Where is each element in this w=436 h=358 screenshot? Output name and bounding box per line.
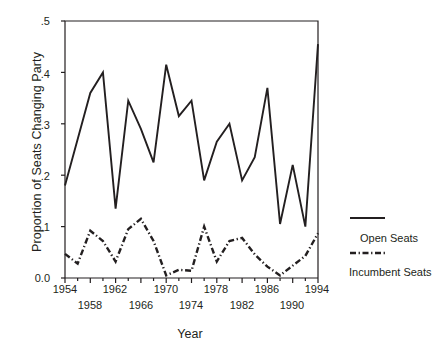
plot-canvas — [0, 0, 436, 358]
legend-label-incumbent-seats: Incumbent Seats — [349, 266, 432, 278]
series-line-incumbent-seats — [65, 219, 318, 276]
y-tick-label-3: .3 — [24, 119, 50, 131]
x-tick-label-1962: 1962 — [95, 283, 135, 295]
y-tick-label-5: .5 — [24, 15, 50, 27]
x-tick-label-1954: 1954 — [45, 283, 85, 295]
x-tick-label-1970: 1970 — [146, 283, 186, 295]
x-tick-label-1994: 1994 — [297, 283, 337, 295]
x-axis-title: Year — [110, 327, 270, 341]
x-tick-label-1978: 1978 — [196, 283, 236, 295]
x-tick-label-1958: 1958 — [70, 299, 110, 311]
y-tick-label-4: .4 — [24, 68, 50, 80]
legend-label-open-seats: Open Seats — [360, 232, 418, 244]
x-tick-label-1986: 1986 — [247, 283, 287, 295]
x-tick-label-1966: 1966 — [121, 299, 161, 311]
y-axis-title: Proportion of Seats Changing Party — [30, 22, 44, 282]
series-line-open-seats — [65, 44, 318, 226]
y-tick-label-2: .2 — [24, 170, 50, 182]
y-tick-label-1: .1 — [24, 221, 50, 233]
x-tick-label-1982: 1982 — [222, 299, 262, 311]
x-tick-label-1974: 1974 — [171, 299, 211, 311]
chart-figure: Proportion of Seats Changing Party Year … — [0, 0, 436, 358]
x-tick-label-1990: 1990 — [272, 299, 312, 311]
